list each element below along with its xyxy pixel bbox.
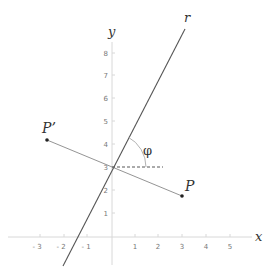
y-tick-label: 2 <box>104 187 108 195</box>
y-axis-label: y <box>107 24 116 39</box>
y-tick-label: 1 <box>104 210 108 218</box>
angle-phi-label: φ <box>143 143 152 158</box>
x-tick-label: - 1 <box>81 243 90 251</box>
x-tick-label: 2 <box>156 243 160 251</box>
x-tick-label: - 2 <box>56 243 65 251</box>
reflection-diagram: - 3 - 2 - 1 1 2 3 4 5 1 2 3 4 5 6 7 8 x … <box>0 0 277 272</box>
point-p-label: P <box>184 178 195 194</box>
line-r <box>63 29 185 266</box>
x-tick-label: - 3 <box>32 243 41 251</box>
y-tick-label: 4 <box>104 141 109 149</box>
y-tick-label: 5 <box>104 118 108 126</box>
y-tick-label: 6 <box>104 95 109 103</box>
line-r-label: r <box>184 10 191 25</box>
point-p-prime-label: P’ <box>41 120 56 136</box>
y-tick-label: 8 <box>104 50 108 58</box>
x-tick-label: 4 <box>204 243 209 251</box>
x-tick-label: 5 <box>228 243 232 251</box>
segment-p-prime-p <box>47 140 182 196</box>
x-axis-label: x <box>255 229 263 244</box>
x-tick-label: 1 <box>133 243 137 251</box>
y-tick-label: 7 <box>104 72 108 80</box>
point-p-prime <box>45 138 49 142</box>
point-p <box>180 194 184 198</box>
x-tick-label: 3 <box>180 243 184 251</box>
